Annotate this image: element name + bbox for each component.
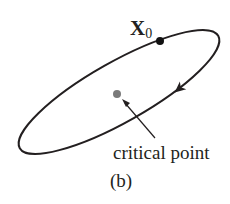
critical-point-marker (113, 90, 121, 98)
initial-point-marker (156, 37, 164, 45)
critical-point-label: critical point (113, 142, 210, 163)
critical-point-pointer-arrowhead-icon (122, 99, 130, 107)
initial-point-subscript: 0 (145, 26, 152, 41)
phase-portrait-svg: X0 critical point (b) (0, 0, 230, 204)
phase-portrait-figure: X0 critical point (b) (0, 0, 230, 204)
initial-point-label: X0 (130, 16, 152, 41)
panel-label: (b) (110, 170, 132, 192)
